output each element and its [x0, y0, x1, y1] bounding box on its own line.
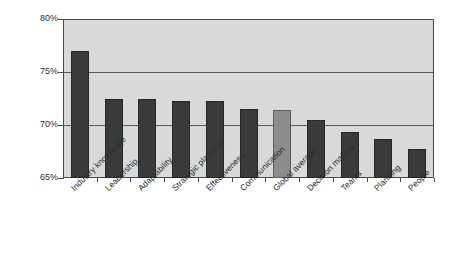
x-axis-category-label: Adaptability [137, 156, 174, 193]
x-axis-category-label: Industry knowledge [69, 135, 127, 193]
x-axis-category-label: Leadership [103, 157, 139, 193]
x-axis-category-label: Planning [373, 163, 403, 193]
bar-chart: 65%70%75%80% Industry knowledgeLeadershi… [0, 0, 451, 266]
x-axis-labels: Industry knowledgeLeadershipAdaptability… [0, 0, 451, 266]
x-axis-category-label: Teams [339, 169, 363, 193]
x-axis-category-label: People [407, 168, 432, 193]
